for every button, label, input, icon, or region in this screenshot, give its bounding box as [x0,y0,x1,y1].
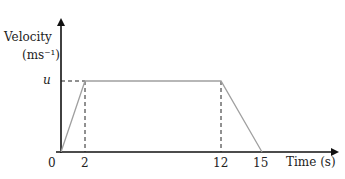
y-tick-u: u [43,73,51,87]
x-tick-12: 12 [213,156,228,170]
x-axis-label: Time (s) [286,155,336,169]
velocity-time-graph: Velocity (ms⁻¹) u 0 2 12 15 Time (s) [0,0,345,179]
x-tick-2: 2 [81,156,89,170]
velocity-line [61,81,262,152]
y-axis-label-line1: Velocity [3,30,52,44]
x-tick-0: 0 [48,156,56,170]
y-axis-label-line2: (ms⁻¹) [22,48,60,62]
x-tick-15: 15 [253,156,268,170]
